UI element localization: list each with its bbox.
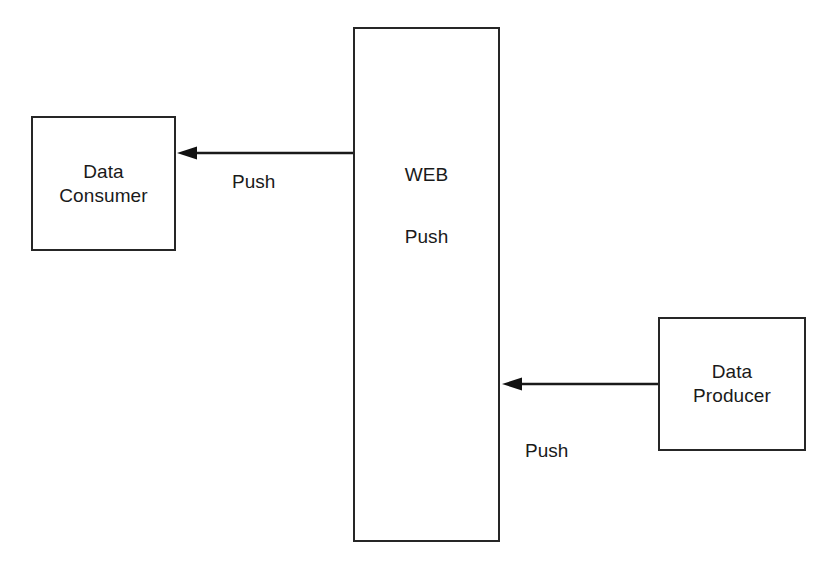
diagram-canvas: Data Consumer WEB Push Data Producer Pus… (0, 0, 835, 570)
node-web-secondary-label: Push (405, 225, 449, 249)
arrowhead-icon-web-to-consumer (177, 147, 197, 160)
node-data-producer[interactable]: Data Producer (658, 317, 806, 451)
node-data-consumer-label: Data Consumer (59, 160, 147, 208)
node-web[interactable]: WEB Push (353, 27, 500, 542)
node-web-text-stack: WEB Push (405, 163, 449, 249)
edge-label-producer-to-web: Push (525, 440, 568, 462)
edge-web-to-consumer (177, 147, 354, 160)
node-data-consumer[interactable]: Data Consumer (31, 116, 176, 251)
node-web-label: WEB (405, 163, 449, 187)
arrowhead-icon-producer-to-web (502, 378, 522, 391)
edge-label-web-to-consumer: Push (232, 171, 275, 193)
node-data-producer-label: Data Producer (693, 360, 771, 408)
edge-producer-to-web (502, 378, 658, 391)
